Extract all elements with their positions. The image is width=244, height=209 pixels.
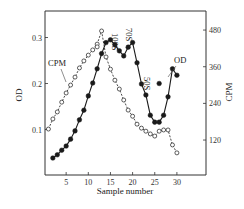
data-point [131,114,135,118]
data-point [144,93,149,98]
series-cpm-outlier [95,45,99,49]
data-point [104,40,109,45]
series-od [51,38,180,161]
data-point [162,128,166,132]
left-axis-ticks: 0.10.20.3 [32,34,48,135]
data-point [108,67,112,71]
annotation-cpm-label: CPM [48,58,66,68]
right-tick-label: 360 [209,63,221,72]
data-point [69,83,73,87]
data-point [157,129,161,133]
data-point [73,75,77,79]
data-point [86,94,91,99]
x-tick-label: 10 [84,178,92,187]
data-point [64,91,68,95]
left-tick-label: 0.3 [32,34,42,43]
x-tick-label: 30 [173,178,181,187]
data-point [113,78,117,82]
left-tick-label: 0.1 [32,126,42,135]
data-point [59,148,64,153]
data-point [100,29,104,33]
annotation-50s: 50S [142,77,152,91]
data-point [175,151,179,155]
data-point [144,129,148,133]
data-point [77,66,81,70]
data-point [46,127,50,131]
chart: 51015202530 0.10.20.3 120240360480 Sampl… [0,0,244,209]
data-point [175,73,180,78]
data-point [157,120,162,125]
cpm-leader-line [61,69,66,82]
data-point [166,128,170,132]
data-point [148,113,153,118]
right-tick-label: 120 [209,136,221,145]
data-point [68,137,73,142]
data-point [86,53,90,57]
data-point [95,66,100,71]
data-point [51,156,56,161]
data-point [126,108,130,112]
data-point [82,59,86,63]
data-point [77,118,82,123]
data-point [104,55,108,59]
x-tick-label: 5 [64,178,68,187]
x-axis-title: Sample number [97,186,154,196]
annotation-100s: 100S [110,33,120,51]
data-point [153,134,157,138]
data-point [166,95,171,100]
data-point [148,132,152,136]
data-point [161,113,166,118]
series-od-outlier [157,81,162,86]
right-axis-title: CPM [224,82,234,101]
data-point [55,110,59,114]
chart-canvas: 51015202530 0.10.20.3 120240360480 Sampl… [0,0,244,209]
data-point [122,98,126,102]
data-point [135,61,140,66]
data-point [64,144,69,149]
data-point [82,108,87,113]
data-point [51,117,55,121]
data-point [126,45,131,50]
annotation-od-label: OD [174,55,186,65]
left-axis-title: OD [14,88,24,101]
data-point [90,81,95,86]
data-point [73,129,78,134]
annotation-70s: 70S [124,28,134,42]
data-point [139,126,143,130]
data-point [91,48,95,52]
data-point [152,120,157,125]
right-tick-label: 480 [209,26,221,35]
data-point [121,54,126,59]
data-point [55,153,60,158]
x-axis-ticks: 51015202530 [64,172,181,187]
data-point [135,122,139,126]
data-point [95,45,99,49]
data-point [170,143,174,147]
data-point [60,100,64,104]
right-tick-label: 240 [209,99,221,108]
data-point [117,87,121,91]
data-point [157,81,162,86]
data-point [99,51,104,56]
left-tick-label: 0.2 [32,80,42,89]
